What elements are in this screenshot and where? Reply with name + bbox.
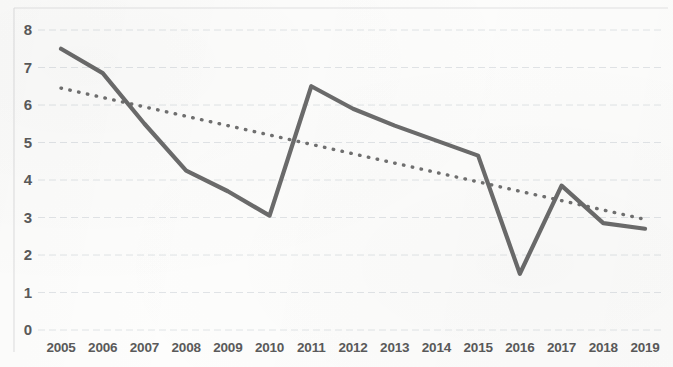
data-series-line (61, 49, 645, 274)
y-axis-tick-label: 7 (12, 60, 32, 75)
y-axis-tick-label: 8 (12, 22, 32, 37)
y-axis-tick-label: 5 (12, 135, 32, 150)
x-axis-tick-label: 2013 (374, 341, 416, 355)
y-axis-tick-label: 4 (12, 172, 32, 187)
y-axis-tick-label: 0 (12, 322, 32, 337)
y-axis-tick-label: 6 (12, 97, 32, 112)
x-axis-tick-label: 2019 (624, 341, 666, 355)
x-axis-tick-label: 2015 (457, 341, 499, 355)
x-axis-tick-label: 2016 (499, 341, 541, 355)
chart-container: 012345678 200520062007200820092010201120… (0, 0, 673, 367)
y-axis-tick-label: 3 (12, 210, 32, 225)
gridlines (38, 30, 661, 330)
y-axis-tick-label: 2 (12, 247, 32, 262)
y-axis-tick-label: 1 (12, 285, 32, 300)
x-axis-tick-label: 2008 (165, 341, 207, 355)
x-axis-tick-label: 2006 (82, 341, 124, 355)
x-axis-tick-label: 2011 (290, 341, 332, 355)
x-axis-tick-label: 2007 (123, 341, 165, 355)
x-axis-tick-label: 2017 (541, 341, 583, 355)
x-axis-tick-label: 2014 (415, 341, 457, 355)
x-axis-tick-label: 2018 (582, 341, 624, 355)
x-axis-tick-label: 2005 (40, 341, 82, 355)
x-axis-tick-label: 2010 (249, 341, 291, 355)
x-axis-tick-label: 2012 (332, 341, 374, 355)
data-line-path (61, 49, 645, 274)
chart-plot-area (0, 0, 673, 367)
x-axis-tick-label: 2009 (207, 341, 249, 355)
